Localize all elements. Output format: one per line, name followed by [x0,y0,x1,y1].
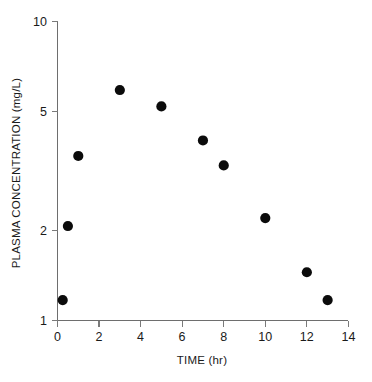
x-tick-label-10: 10 [258,330,272,344]
x-tick-label-8: 8 [220,330,227,344]
data-point [198,135,208,145]
data-point [73,151,83,161]
x-tick-label-14: 14 [341,330,355,344]
data-series-plasma-concentration [58,85,333,305]
y-axis-title: PLASMA CONCENTRATION (mg/L) [10,78,22,269]
scatter-chart: 10 5 2 1 0 2 4 6 8 10 12 14 TIM [0,0,372,382]
y-tick-label-10: 10 [33,15,47,29]
x-tick-label-0: 0 [54,330,61,344]
data-point [115,85,125,95]
data-point [63,221,73,231]
plot-area: 10 5 2 1 0 2 4 6 8 10 12 14 TIM [0,0,372,382]
data-point [219,160,229,170]
x-tick-label-12: 12 [300,330,314,344]
y-axis-ticks [52,22,58,321]
data-point [156,101,166,111]
y-tick-label-1: 1 [40,314,47,328]
y-axis-tick-labels: 10 5 2 1 [33,15,47,328]
data-point [58,295,68,305]
y-tick-label-2: 2 [40,224,47,238]
x-tick-label-2: 2 [96,330,103,344]
data-point [302,267,312,277]
data-point [260,213,270,223]
x-axis-title: TIME (hr) [177,354,227,366]
x-axis-ticks [58,321,349,328]
y-tick-label-5: 5 [40,105,47,119]
x-tick-label-6: 6 [179,330,186,344]
x-tick-label-4: 4 [137,330,144,344]
data-point [323,295,333,305]
x-axis-tick-labels: 0 2 4 6 8 10 12 14 [54,330,355,344]
